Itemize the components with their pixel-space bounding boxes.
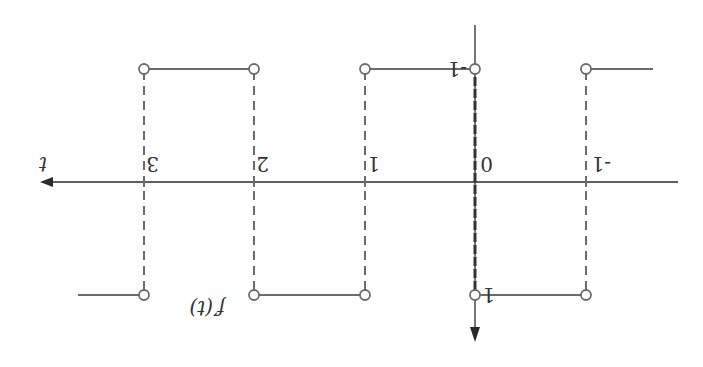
tick-label-2: 2 — [256, 152, 269, 176]
open-circle-icon — [360, 64, 370, 74]
tick-label-0: 0 — [480, 152, 493, 176]
open-circle-icon — [581, 290, 591, 300]
function-label: f′(t) — [189, 296, 227, 320]
open-circle-icon — [470, 64, 480, 74]
tick-label-neg1: -1 — [592, 152, 611, 176]
open-circle-icon — [249, 290, 259, 300]
tick-label-1: 1 — [367, 152, 380, 176]
open-circle-icon — [581, 64, 591, 74]
diagram-svg: -1 0 1 2 3 1 -1 t f′(t) — [0, 0, 703, 367]
x-axis-label: t — [38, 152, 47, 176]
square-wave-diagram: -1 0 1 2 3 1 -1 t f′(t) — [0, 0, 703, 367]
y-tick-label-1: 1 — [482, 283, 495, 307]
t-axis-arrow-icon — [40, 177, 53, 187]
tick-label-3: 3 — [146, 152, 159, 176]
open-circle-icon — [470, 290, 480, 300]
open-circle-icon — [249, 64, 259, 74]
y-tick-label-neg1: -1 — [448, 57, 467, 81]
y-axis-arrow-icon — [470, 327, 480, 342]
open-circle-icon — [139, 290, 149, 300]
open-circle-icon — [139, 64, 149, 74]
open-circle-icon — [360, 290, 370, 300]
